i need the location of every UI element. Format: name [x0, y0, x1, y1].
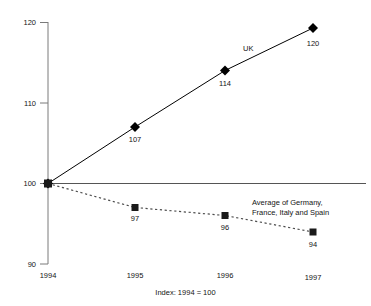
x-axis-label-1997: 1997: [293, 273, 333, 282]
x-axis-label-1994: 1994: [28, 271, 68, 280]
marker-average-1994: [44, 180, 52, 188]
series-annotation-average-line1: Average of Germany,: [252, 198, 329, 208]
y-axis-label-90: 90: [10, 260, 36, 269]
point-label-uk-1995: 107: [120, 135, 150, 144]
series-line-uk: [48, 28, 313, 184]
x-axis-label-1995: 1995: [115, 271, 155, 280]
marker-uk-1995: [130, 122, 140, 132]
marker-uk-1996: [220, 66, 230, 76]
point-label-average-1996: 96: [210, 223, 240, 232]
series-annotation-uk: UK: [243, 44, 253, 53]
y-axis-label-110: 110: [10, 99, 36, 108]
point-label-average-1995: 97: [120, 214, 150, 223]
marker-average-1997: [310, 229, 317, 236]
y-axis-label-120: 120: [10, 18, 36, 27]
point-label-uk-1996: 114: [210, 79, 240, 88]
chart-footnote: Index: 1994 = 100: [0, 288, 371, 297]
marker-average-1995: [132, 204, 139, 211]
point-label-uk-1997: 120: [298, 39, 328, 48]
series-annotation-average: Average of Germany, France, Italy and Sp…: [252, 198, 329, 218]
y-axis-label-100: 100: [10, 179, 36, 188]
marker-uk-1997: [308, 23, 318, 33]
x-axis-label-1996: 1996: [205, 271, 245, 280]
series-annotation-average-line2: France, Italy and Spain: [252, 208, 329, 218]
point-label-average-1997: 94: [298, 240, 328, 249]
line-chart: 120 110 100 90 1994 1995 1996 1997 107 1…: [0, 0, 371, 306]
marker-average-1996: [222, 212, 229, 219]
